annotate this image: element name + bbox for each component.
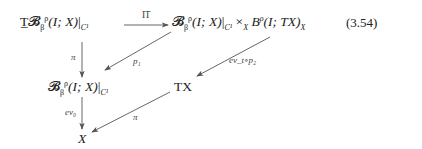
node-bottom: X xyxy=(78,131,86,147)
sub-beta: β xyxy=(60,88,64,97)
node-top-left-prefix: T̲𝓑 xyxy=(20,14,40,29)
second-factor: B xyxy=(251,14,259,29)
label-ev0: ev₀ xyxy=(65,107,76,117)
node-top-right: 𝓑βρ(I; X)|C¹ ×X Bρ(I; TX)X xyxy=(172,14,306,30)
node-middle-right: TX xyxy=(174,79,192,95)
restrict-c1: C¹ xyxy=(100,88,108,97)
node-middle-left-prefix: 𝓑 xyxy=(48,79,60,94)
times-sub: X xyxy=(243,23,248,32)
node-bottom-label: X xyxy=(78,131,86,146)
sub-beta: β xyxy=(184,23,188,32)
restrict-c1: C¹ xyxy=(224,23,232,32)
restrict-c1: C¹ xyxy=(81,23,89,32)
arrow-diag-pi xyxy=(92,92,170,132)
second-body: (I; TX) xyxy=(263,14,300,29)
second-sub: X xyxy=(301,23,306,32)
label-ev-p2: ev_t∘p₂ xyxy=(229,55,256,65)
label-pi-top: π xyxy=(71,52,76,62)
node-top-left: T̲𝓑βρ(I; X)|C¹ xyxy=(20,14,88,30)
label-pi-bar: Π̄ xyxy=(142,9,149,20)
sub-beta: β xyxy=(40,23,44,32)
times-symbol: × xyxy=(236,14,244,29)
node-middle-left: 𝓑βρ(I; X)|C¹ xyxy=(48,79,108,95)
label-p1: p₁ xyxy=(133,56,141,66)
node-top-left-body: (I; X) xyxy=(48,14,78,29)
label-pi-diag: π xyxy=(133,112,138,122)
equation-number: (3.54) xyxy=(346,15,377,31)
node-middle-left-body: (I; X) xyxy=(68,79,98,94)
node-top-right-body: (I; X) xyxy=(192,14,222,29)
node-top-right-prefix: 𝓑 xyxy=(172,14,184,29)
